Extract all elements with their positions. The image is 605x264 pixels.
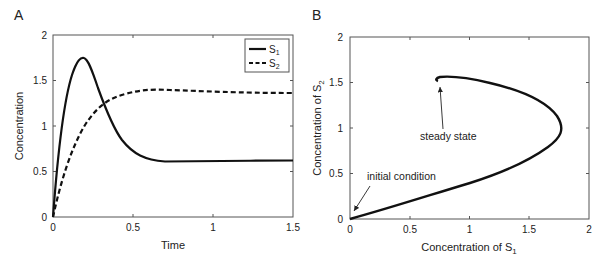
panel-label-a: A <box>14 7 24 23</box>
x-axis-b <box>410 37 529 219</box>
steady-state-arrow <box>440 87 443 129</box>
y-tick-label: 2 <box>337 32 343 43</box>
y-tick-label: 0.5 <box>329 168 343 179</box>
plot-frame-b <box>350 37 589 219</box>
x-tick-label: 1.5 <box>522 224 536 235</box>
y-axis-b <box>350 83 589 174</box>
x-tick-label: 0 <box>347 224 353 235</box>
annotation-initial-condition: initial condition <box>367 170 436 182</box>
x-tick-label: 1 <box>467 224 473 235</box>
x-tick-label: 1 <box>210 222 216 233</box>
chart-panel-a: A 0 0.5 1 1.5 2 0 0.5 1 1.5 Time Concent… <box>13 7 300 251</box>
y-tick-label: 0 <box>337 214 343 225</box>
x-tick-label: 1.5 <box>286 222 300 233</box>
x-tick-label: 0.5 <box>126 222 140 233</box>
x-tick-label: 2 <box>586 224 592 235</box>
y-tick-label: 1.5 <box>33 75 47 86</box>
x-axis-title-b: Concentration of S1 <box>421 241 517 256</box>
y-axis-title-a: Concentration <box>13 92 25 161</box>
figure: A 0 0.5 1 1.5 2 0 0.5 1 1.5 Time Concent… <box>0 0 605 264</box>
x-axis-title-a: Time <box>161 239 185 251</box>
x-axis-a <box>133 35 213 217</box>
x-tick-label: 0 <box>50 222 56 233</box>
y-tick-label: 1 <box>41 121 47 132</box>
series-s1-line <box>53 58 293 217</box>
panel-label-b: B <box>312 7 321 23</box>
series-s2-line <box>53 90 293 217</box>
legend-a: S1 S2 <box>245 39 289 72</box>
y-axis-title-b: Concentration of S2 <box>311 80 326 176</box>
y-tick-label: 1.5 <box>329 77 343 88</box>
y-tick-label: 2 <box>41 30 47 41</box>
y-axis-a <box>53 81 293 172</box>
x-tick-label: 0.5 <box>403 224 417 235</box>
annotation-steady-state: steady state <box>420 130 477 142</box>
initial-condition-arrow <box>354 186 370 211</box>
chart-panel-b: B 0 0.5 1 1.5 2 0 0.5 1 1.5 2 Concentrat… <box>311 7 592 256</box>
y-tick-label: 0 <box>41 212 47 223</box>
y-tick-label: 0.5 <box>33 166 47 177</box>
phase-trajectory <box>350 77 561 219</box>
y-tick-label: 1 <box>337 123 343 134</box>
